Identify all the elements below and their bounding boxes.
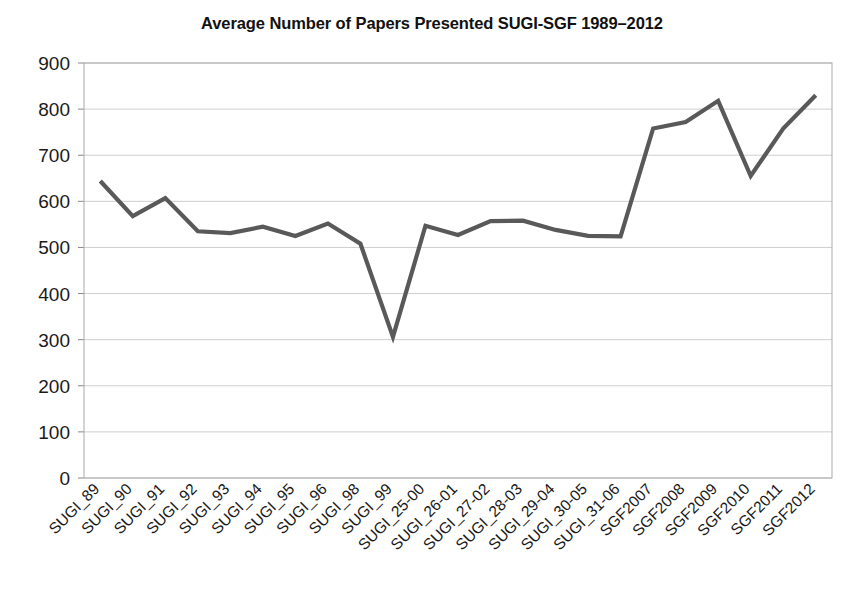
y-axis-tick-labels: 0100200300400500600700800900 [38, 53, 70, 489]
y-tick-label: 900 [38, 53, 70, 74]
line-chart-plot: 0100200300400500600700800900 SUGI_89SUGI… [0, 0, 864, 595]
y-tick-label: 700 [38, 145, 70, 166]
plot-area-border [84, 63, 832, 478]
series-line-average-papers [100, 95, 815, 337]
y-tick-label: 300 [38, 330, 70, 351]
y-tick-label: 400 [38, 284, 70, 305]
y-tick-label: 600 [38, 191, 70, 212]
y-tick-label: 0 [59, 468, 70, 489]
gridlines-group [78, 63, 832, 478]
y-tick-label: 200 [38, 376, 70, 397]
y-tick-label: 500 [38, 237, 70, 258]
x-axis-tick-labels: SUGI_89SUGI_90SUGI_91SUGI_92SUGI_93SUGI_… [45, 480, 818, 553]
y-tick-label: 100 [38, 422, 70, 443]
chart-container: Average Number of Papers Presented SUGI-… [0, 0, 864, 595]
y-tick-label: 800 [38, 99, 70, 120]
plot-frame [84, 63, 832, 478]
data-series-group [100, 95, 815, 337]
